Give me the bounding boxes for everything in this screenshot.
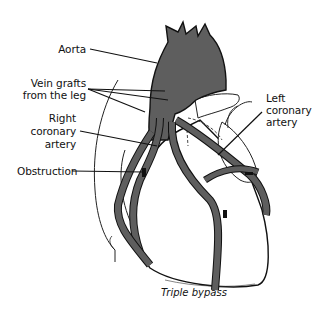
label-vein-grafts-line1: Vein grafts xyxy=(14,77,86,89)
label-right-coronary-line1: Right xyxy=(20,112,76,124)
label-left-coronary-line2: coronary xyxy=(266,104,312,116)
label-aorta: Aorta xyxy=(30,43,86,55)
triple-bypass-diagram: Aorta Vein grafts from the leg Right cor… xyxy=(0,0,327,313)
label-left-coronary-line1: Left xyxy=(266,92,285,104)
label-right-coronary-line3: artery xyxy=(20,138,76,150)
label-right-coronary-line2: coronary xyxy=(20,125,76,137)
aorta-leader xyxy=(90,49,157,63)
caption: Triple bypass xyxy=(161,287,227,298)
label-obstruction: Obstruction xyxy=(17,165,77,177)
label-left-coronary-line3: artery xyxy=(266,116,297,128)
label-vein-grafts-line2: from the leg xyxy=(14,89,86,101)
